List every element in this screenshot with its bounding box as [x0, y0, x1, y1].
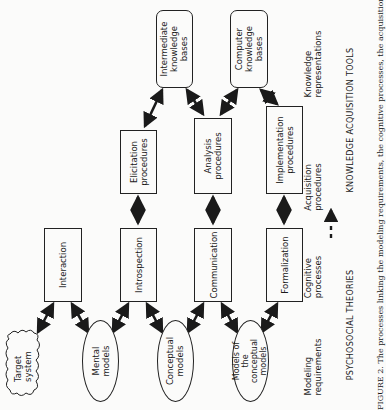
- introspection-node: Introspection: [120, 228, 157, 302]
- conceptual-models-label: Conceptual models: [166, 337, 186, 385]
- row-label-modeling: Modeling requirements: [298, 330, 328, 404]
- heading-psychosocial-text: PSYCHOSOCIAL THEORIES: [346, 270, 356, 381]
- figure-caption: FIGURE 2. The processes linking the mode…: [366, 0, 382, 407]
- formalization-label: Formalization: [280, 236, 290, 293]
- interaction-node: Interaction: [44, 228, 82, 302]
- models-of-conceptual-node: Models of the conceptual models: [232, 320, 269, 402]
- computer-kb-node: Computer knowledge bases: [230, 10, 268, 88]
- analysis-node: Analysis procedures: [194, 118, 232, 194]
- elicitation-label: Elicitation procedures: [129, 138, 149, 186]
- row-label-knowledge: Knowledge representations: [298, 14, 328, 114]
- heading-knowledge-tools-text: KNOWLEDGE ACQUISITION TOOLS: [346, 48, 356, 193]
- models-of-conceptual-label: Models of the conceptual models: [233, 339, 269, 383]
- introspection-label: Introspection: [134, 237, 144, 293]
- row-label-modeling-text: Modeling requirements: [303, 339, 323, 396]
- interaction-label: Interaction: [58, 242, 68, 288]
- communication-node: Communication: [194, 228, 232, 302]
- heading-psychosocial: PSYCHOSOCIAL THEORIES: [342, 250, 360, 400]
- row-label-knowledge-text: Knowledge representations: [303, 31, 323, 98]
- communication-label: Communication: [208, 232, 218, 299]
- figure-caption-text: FIGURE 2. The processes linking the mode…: [376, 0, 386, 410]
- computer-kb-label: Computer knowledge bases: [234, 26, 264, 72]
- elicitation-node: Elicitation procedures: [120, 130, 157, 194]
- intermediate-kb-label: Intermediate knowledge bases: [160, 22, 190, 77]
- intermediate-kb-node: Intermediate knowledge bases: [156, 10, 193, 88]
- row-label-cognitive: Cognitive processes: [298, 240, 328, 314]
- target-system-label-wrap: Target system: [4, 328, 42, 398]
- row-label-acquisition: Acquisition procedures: [298, 150, 328, 224]
- row-label-acquisition-text: Acquisition procedures: [303, 163, 323, 211]
- row-label-cognitive-text: Cognitive processes: [303, 256, 323, 298]
- mental-models-node: Mental models: [82, 320, 119, 402]
- target-system-label: Target system: [13, 344, 33, 382]
- analysis-label: Analysis procedures: [203, 132, 223, 180]
- conceptual-models-node: Conceptual models: [157, 320, 194, 402]
- mental-models-label: Mental models: [91, 344, 111, 379]
- heading-knowledge-tools: KNOWLEDGE ACQUISITION TOOLS: [342, 20, 360, 220]
- implementation-label: Implementation procedures: [275, 116, 295, 184]
